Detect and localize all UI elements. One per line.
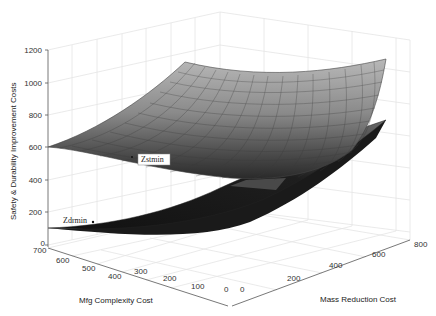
z-tick: 800 bbox=[29, 111, 43, 120]
x-tick: 300 bbox=[134, 267, 148, 276]
x-tick: 200 bbox=[163, 274, 177, 283]
y-tick: 0 bbox=[240, 285, 245, 294]
z-tick: 600 bbox=[29, 143, 43, 152]
x-tick: 0 bbox=[224, 285, 229, 294]
x-tick: 400 bbox=[108, 272, 122, 281]
x-tick: 500 bbox=[82, 264, 96, 273]
z-tick-labels: 1200 1000 800 600 400 200 0 bbox=[24, 46, 45, 248]
z-axis-label: Safety & Durability Improvement Costs bbox=[9, 83, 18, 220]
z-tick: 400 bbox=[29, 176, 43, 185]
x-axis-label: Mfg Complexity Cost bbox=[79, 296, 154, 305]
x-tick: 700 bbox=[33, 246, 47, 255]
y-tick: 800 bbox=[414, 240, 428, 249]
y-tick: 600 bbox=[372, 250, 386, 259]
y-axis-label: Mass Reduction Cost bbox=[320, 295, 397, 304]
annotation-zdrmin: Zdrmin bbox=[63, 216, 94, 225]
svg-text:Zstmin: Zstmin bbox=[141, 155, 164, 164]
y-tick: 200 bbox=[287, 274, 301, 283]
y-tick: 400 bbox=[329, 261, 343, 270]
x-tick-labels: 700 600 500 400 300 200 100 0 bbox=[33, 246, 229, 294]
x-tick: 100 bbox=[191, 282, 205, 291]
z-tick: 1200 bbox=[24, 46, 42, 55]
z-tick: 200 bbox=[29, 208, 43, 217]
svg-text:Zdrmin: Zdrmin bbox=[63, 216, 87, 225]
surface-plot: 1200 1000 800 600 400 200 0 700 600 500 … bbox=[0, 0, 436, 316]
z-tick: 1000 bbox=[24, 79, 42, 88]
x-tick: 600 bbox=[56, 256, 70, 265]
